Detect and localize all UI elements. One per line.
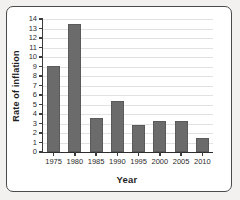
x-axis-tick bbox=[159, 152, 160, 156]
y-axis-tick bbox=[39, 37, 43, 38]
x-axis-tick-label: 1995 bbox=[130, 158, 147, 166]
y-axis-tick bbox=[39, 132, 43, 133]
y-axis-tick bbox=[39, 28, 43, 29]
bar bbox=[175, 121, 188, 152]
y-axis-tick bbox=[39, 85, 43, 86]
x-axis-tick-label: 2010 bbox=[194, 158, 211, 166]
y-axis-tick-label: 13 bbox=[29, 25, 37, 33]
x-axis-tick bbox=[117, 152, 118, 156]
x-axis-tick-label: 1985 bbox=[88, 158, 105, 166]
y-axis-tick-label: 11 bbox=[29, 44, 37, 52]
y-axis-tick-label: 1 bbox=[33, 139, 37, 147]
bar bbox=[132, 125, 145, 152]
x-axis-tick bbox=[180, 152, 181, 156]
bar bbox=[90, 118, 103, 152]
gridline bbox=[43, 19, 213, 20]
x-axis-tick-label: 2000 bbox=[152, 158, 169, 166]
y-axis-tick bbox=[39, 66, 43, 67]
y-axis-title-text: Rate of inflation bbox=[11, 50, 21, 121]
x-axis-tick bbox=[138, 152, 139, 156]
x-axis-title: Year bbox=[42, 174, 212, 185]
y-axis-tick-label: 3 bbox=[33, 120, 37, 128]
bar bbox=[196, 138, 209, 152]
bar bbox=[111, 101, 124, 152]
bar bbox=[153, 121, 166, 152]
y-axis-tick bbox=[39, 113, 43, 114]
y-axis-tick-label: 8 bbox=[33, 72, 37, 80]
plot-area: 01234567891011121314 1975198019851990199… bbox=[42, 19, 213, 153]
y-axis-tick bbox=[39, 47, 43, 48]
y-axis-tick bbox=[39, 123, 43, 124]
x-axis-tick-label: 1990 bbox=[109, 158, 126, 166]
x-axis-tick bbox=[202, 152, 203, 156]
x-axis-tick bbox=[53, 152, 54, 156]
x-axis-tick-label: 2005 bbox=[173, 158, 190, 166]
bar bbox=[68, 24, 81, 152]
x-axis-tick bbox=[95, 152, 96, 156]
bar bbox=[47, 66, 60, 152]
y-axis-tick-label: 7 bbox=[33, 82, 37, 90]
y-axis-tick bbox=[39, 142, 43, 143]
y-axis-tick bbox=[39, 94, 43, 95]
x-axis-tick-label: 1980 bbox=[67, 158, 84, 166]
y-axis-tick bbox=[39, 75, 43, 76]
x-axis-tick-label: 1975 bbox=[45, 158, 62, 166]
y-axis-title: Rate of inflation bbox=[9, 19, 23, 152]
y-axis-tick-label: 14 bbox=[29, 15, 37, 23]
y-axis-tick-label: 9 bbox=[33, 63, 37, 71]
y-axis-tick-label: 2 bbox=[33, 129, 37, 137]
chart-figure: Rate of inflation 01234567891011121314 1… bbox=[0, 0, 240, 200]
y-axis-tick-label: 6 bbox=[33, 91, 37, 99]
y-axis-tick-label: 12 bbox=[29, 34, 37, 42]
y-axis-tick bbox=[39, 56, 43, 57]
y-axis-tick-label: 5 bbox=[33, 101, 37, 109]
y-axis-tick bbox=[39, 104, 43, 105]
y-axis-tick-label: 4 bbox=[33, 110, 37, 118]
y-axis-tick bbox=[39, 151, 43, 152]
y-axis-tick-label: 0 bbox=[33, 148, 37, 156]
y-axis-tick bbox=[39, 18, 43, 19]
x-axis-tick bbox=[74, 152, 75, 156]
y-axis-tick-label: 10 bbox=[29, 53, 37, 61]
